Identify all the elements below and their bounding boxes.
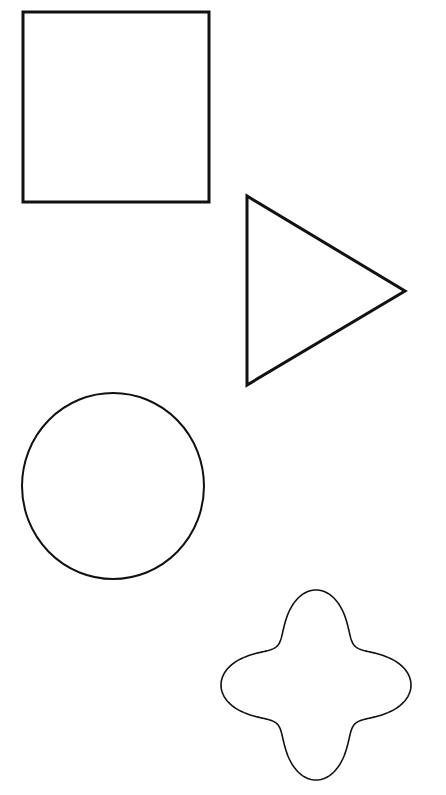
quatrefoil-shape <box>221 590 411 780</box>
circle-shape <box>22 393 204 579</box>
square-shape <box>23 12 209 202</box>
shapes-drawing <box>0 0 446 795</box>
triangle-shape <box>247 196 405 385</box>
shapes-canvas <box>0 0 446 795</box>
